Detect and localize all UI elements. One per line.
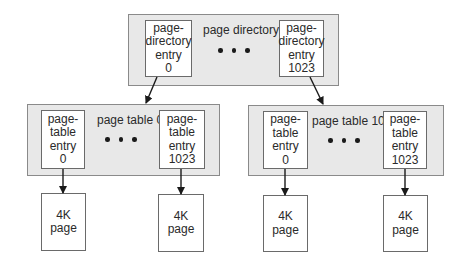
arrows-layer bbox=[0, 0, 465, 264]
arrow-icon bbox=[146, 77, 157, 103]
arrow-icon bbox=[310, 77, 323, 104]
